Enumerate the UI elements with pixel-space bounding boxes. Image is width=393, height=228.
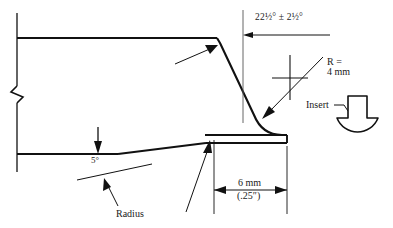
insert-leader-group — [334, 105, 348, 111]
radius-label-line2: 4 mm — [327, 67, 350, 78]
root-corner-pointer-line — [186, 152, 207, 212]
insert-label: Insert — [306, 100, 329, 111]
bevel-and-fillet-path — [217, 38, 287, 135]
angle-arrowhead-icon — [243, 32, 253, 38]
left-edge-group — [11, 13, 23, 172]
insert-leader-line — [334, 105, 348, 111]
bevel-pointer-group — [175, 45, 218, 64]
radius-text-leader-line — [108, 186, 118, 206]
technical-drawing: 22½° ± 2½° R = 4 mm Insert 5° 6 mm (.25″… — [0, 0, 393, 228]
dimension-arrowhead-right-icon — [275, 186, 287, 194]
bevel-pointer-arrowhead-icon — [205, 45, 218, 54]
root-corner-pointer-group — [186, 140, 212, 212]
drawing-canvas — [0, 0, 393, 228]
joint-profile — [17, 38, 287, 154]
radius-text-leader-group — [77, 164, 152, 206]
angle-dimension-label: 22½° ± 2½° — [255, 13, 303, 23]
insert-outline — [337, 96, 378, 132]
taper-arrowhead-icon — [94, 141, 102, 154]
root-corner-arrowhead-icon — [203, 140, 212, 153]
break-symbol-icon — [11, 86, 23, 103]
radius-leader-label: Radius — [116, 209, 144, 220]
radius-text-baseline — [77, 164, 152, 180]
insert-part-shape — [337, 96, 378, 132]
taper-line — [118, 143, 206, 154]
taper-angle-label: 5° — [91, 156, 99, 165]
bevel-pointer-line — [175, 48, 212, 64]
dimension-arrowhead-left-icon — [214, 186, 226, 194]
land-dimension-imperial-label: (.25″) — [237, 191, 260, 202]
taper-arrow-group — [94, 127, 102, 154]
land-dimension-metric-label: 6 mm — [238, 178, 261, 189]
